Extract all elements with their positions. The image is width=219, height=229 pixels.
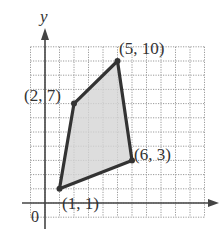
x-axis-arrow-icon xyxy=(208,199,219,207)
coordinate-plane-figure: y 0 (1, 1) (2, 7) (5, 10) (6, 3) xyxy=(0,0,219,229)
vertex-point xyxy=(57,186,63,192)
vertex-point xyxy=(71,101,77,107)
origin-label: 0 xyxy=(31,208,39,225)
vertex-label-5-10: (5, 10) xyxy=(119,39,164,58)
vertex-label-6-3: (6, 3) xyxy=(134,145,171,164)
vertex-label-2-7: (2, 7) xyxy=(24,86,61,105)
vertex-point xyxy=(115,58,121,64)
y-axis-label: y xyxy=(38,7,48,26)
vertex-label-1-1: (1, 1) xyxy=(62,194,99,213)
shaded-quadrilateral xyxy=(60,61,133,189)
y-axis-arrow-icon xyxy=(41,28,49,40)
